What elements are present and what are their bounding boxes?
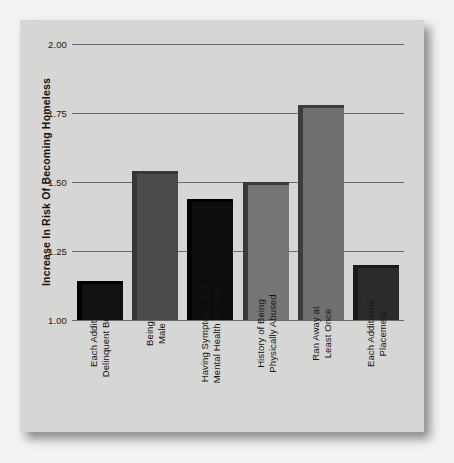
- y-axis-tick-label: 1.25: [48, 246, 67, 257]
- bar-top-edge: [77, 281, 123, 284]
- bar-side-edge: [298, 105, 303, 320]
- bar-fill: [298, 105, 344, 320]
- x-axis-category-text: Each AdditionalPlacement: [365, 300, 388, 367]
- bars: [72, 44, 404, 320]
- plot-area: 1.001.251.501.752.00: [72, 44, 404, 320]
- bar: [132, 171, 178, 320]
- figure-card: Increase In Risk Of Becoming Homeless 1.…: [20, 20, 424, 432]
- bar-side-edge: [243, 182, 248, 320]
- bar-top-edge: [187, 199, 233, 202]
- bar-fill: [132, 171, 178, 320]
- y-axis-tick-label: 1.50: [48, 177, 67, 188]
- bar-top-edge: [243, 182, 289, 185]
- y-axis-tick-label: 1.75: [48, 108, 67, 119]
- bar: [298, 105, 344, 320]
- bar-top-edge: [298, 105, 344, 108]
- gridline: [72, 320, 404, 321]
- bar-side-edge: [77, 281, 82, 320]
- bar-top-edge: [353, 265, 399, 268]
- x-axis-category-label: Each AdditionalPlacement: [324, 322, 428, 426]
- x-axis-labels: Each AdditionalDelinquent BehaviorBeingM…: [72, 322, 404, 426]
- bar-side-edge: [187, 199, 192, 320]
- y-axis-tick-label: 2.00: [48, 39, 67, 50]
- bar-side-edge: [132, 171, 137, 320]
- bar-top-edge: [132, 171, 178, 174]
- bar-side-edge: [353, 265, 358, 320]
